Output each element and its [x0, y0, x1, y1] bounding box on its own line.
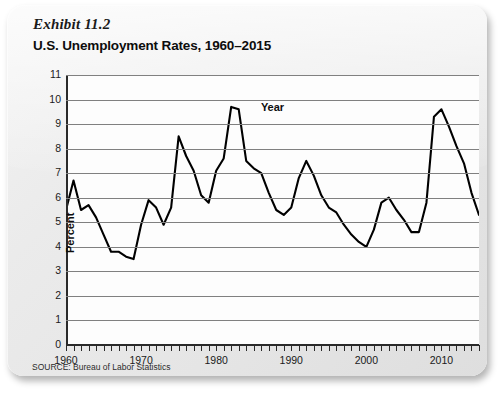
x-tick: [381, 345, 382, 351]
x-tick: [89, 345, 90, 351]
unemployment-rate-line: [66, 75, 479, 345]
x-tick: [246, 345, 247, 351]
x-tick: [119, 345, 120, 351]
gridline: [66, 198, 479, 199]
x-tick: [314, 345, 315, 351]
x-tick: [156, 345, 157, 351]
x-tick: [81, 345, 82, 351]
y-axis-title: Percent: [64, 213, 76, 253]
x-tick: [134, 345, 135, 351]
x-tick: [441, 345, 442, 351]
chart-title: U.S. Unemployment Rates, 1960–2015: [33, 38, 271, 53]
x-tick: [464, 345, 465, 351]
y-tick-label: 7: [35, 166, 61, 178]
x-tick: [74, 345, 75, 351]
x-tick: [224, 345, 225, 351]
x-tick: [284, 345, 285, 351]
x-tick: [209, 345, 210, 351]
x-tick: [389, 345, 390, 351]
y-tick-label: 5: [35, 215, 61, 227]
x-tick: [261, 345, 262, 351]
gridline: [66, 271, 479, 272]
x-tick: [479, 345, 480, 351]
x-tick: [366, 345, 367, 351]
x-tick: [149, 345, 150, 351]
x-tick: [111, 345, 112, 351]
x-tick: [194, 345, 195, 351]
x-tick: [396, 345, 397, 351]
x-tick: [239, 345, 240, 351]
x-tick: [434, 345, 435, 351]
y-tick-label: 1: [35, 313, 61, 325]
y-axis-line: [66, 75, 68, 345]
exhibit-card: Exhibit 11.2 U.S. Unemployment Rates, 19…: [7, 5, 487, 376]
x-tick: [336, 345, 337, 351]
x-tick: [291, 345, 292, 351]
x-tick: [201, 345, 202, 351]
x-tick-label: 2010: [421, 354, 461, 366]
y-tick-label: 8: [35, 142, 61, 154]
x-tick: [404, 345, 405, 351]
x-tick-label: 1990: [271, 354, 311, 366]
x-tick: [351, 345, 352, 351]
x-tick: [126, 345, 127, 351]
x-tick: [179, 345, 180, 351]
x-tick: [344, 345, 345, 351]
x-tick: [411, 345, 412, 351]
y-tick-label: 11: [35, 68, 61, 80]
y-tick-label: 9: [35, 117, 61, 129]
gridline: [66, 173, 479, 174]
y-tick-label: 3: [35, 264, 61, 276]
y-tick-label: 4: [35, 240, 61, 252]
x-tick-label: 1980: [196, 354, 236, 366]
x-tick: [426, 345, 427, 351]
x-tick: [471, 345, 472, 351]
x-tick-label: 2000: [346, 354, 386, 366]
gridline: [66, 247, 479, 248]
plot-area: 01234567891011 Percent 19601970198019902…: [66, 75, 479, 345]
x-tick: [419, 345, 420, 351]
x-tick: [104, 345, 105, 351]
x-tick: [141, 345, 142, 351]
x-tick: [231, 345, 232, 351]
x-tick: [306, 345, 307, 351]
gridline: [66, 75, 479, 76]
x-tick: [276, 345, 277, 351]
x-tick: [449, 345, 450, 351]
y-tick-label: 0: [35, 338, 61, 350]
x-tick: [359, 345, 360, 351]
x-tick: [269, 345, 270, 351]
x-tick: [254, 345, 255, 351]
x-tick: [96, 345, 97, 351]
y-tick-label: 2: [35, 289, 61, 301]
exhibit-number: Exhibit 11.2: [33, 16, 110, 33]
gridline: [66, 222, 479, 223]
gridline: [66, 296, 479, 297]
source-note: SOURCE: Bureau of Labor Statistics: [32, 362, 170, 372]
x-axis-title: Year: [66, 101, 479, 113]
x-tick: [66, 345, 67, 351]
gridline: [66, 149, 479, 150]
y-tick-label: 10: [35, 93, 61, 105]
x-tick: [456, 345, 457, 351]
x-tick: [374, 345, 375, 351]
gridline: [66, 320, 479, 321]
x-tick: [171, 345, 172, 351]
x-tick: [329, 345, 330, 351]
x-tick: [216, 345, 217, 351]
x-tick: [321, 345, 322, 351]
x-tick: [164, 345, 165, 351]
x-tick: [186, 345, 187, 351]
x-tick: [299, 345, 300, 351]
gridline: [66, 124, 479, 125]
y-tick-label: 6: [35, 191, 61, 203]
